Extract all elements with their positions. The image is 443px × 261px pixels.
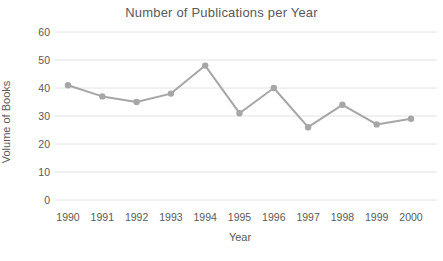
data-point xyxy=(339,102,345,108)
data-point xyxy=(271,85,277,91)
data-line xyxy=(68,66,411,128)
y-tick-label: 60 xyxy=(38,26,50,38)
y-tick-label: 50 xyxy=(38,54,50,66)
x-axis-label: Year xyxy=(37,231,443,243)
plot-area: 0102030405060199019911992199319941995199… xyxy=(0,0,443,261)
data-point xyxy=(374,121,380,127)
x-tick-label: 2000 xyxy=(399,211,423,223)
data-point xyxy=(236,110,242,116)
data-point xyxy=(65,82,71,88)
y-tick-label: 20 xyxy=(38,138,50,150)
data-point xyxy=(202,62,208,68)
x-tick-label: 1990 xyxy=(56,211,80,223)
data-point xyxy=(168,90,174,96)
y-tick-label: 40 xyxy=(38,82,50,94)
chart-container: Number of Publications per Year Volume o… xyxy=(0,0,443,261)
y-tick-label: 30 xyxy=(38,110,50,122)
x-tick-label: 1997 xyxy=(296,211,320,223)
data-point xyxy=(305,124,311,130)
x-tick-label: 1993 xyxy=(159,211,183,223)
x-tick-label: 1991 xyxy=(91,211,115,223)
y-tick-label: 10 xyxy=(38,166,50,178)
x-tick-label: 1992 xyxy=(125,211,149,223)
x-tick-label: 1994 xyxy=(194,211,218,223)
data-point xyxy=(99,93,105,99)
x-tick-label: 1998 xyxy=(331,211,355,223)
x-tick-label: 1995 xyxy=(228,211,252,223)
x-tick-label: 1999 xyxy=(365,211,389,223)
x-tick-label: 1996 xyxy=(262,211,286,223)
y-tick-label: 0 xyxy=(44,194,50,206)
data-point xyxy=(408,116,414,122)
data-point xyxy=(133,99,139,105)
